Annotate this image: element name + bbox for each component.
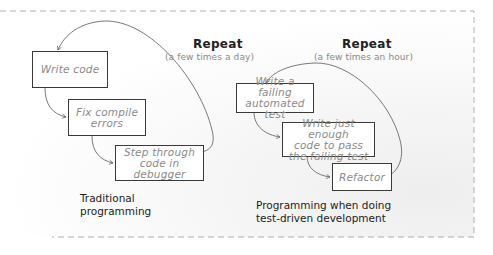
step-label: Write code: [41, 64, 100, 75]
arrow-fix-to-step: [92, 136, 113, 163]
step-fix-compile-errors: Fix compile errors: [68, 99, 146, 136]
caption-tdd: Programming when doing test-driven devel…: [256, 199, 391, 224]
step-refactor: Refactor: [332, 163, 392, 191]
caption-traditional: Traditional programming: [80, 192, 151, 217]
repeat-frequency-tdd: (a few times an hour): [314, 52, 413, 62]
arrow-write-to-fix: [45, 88, 66, 117]
repeat-title-tdd: Repeat: [342, 37, 392, 51]
repeat-frequency-traditional: (a few times a day): [165, 52, 254, 62]
step-step-through-debugger: Step through code in debugger: [115, 145, 204, 181]
repeat-title-traditional: Repeat: [193, 37, 243, 51]
step-write-code-to-pass: Write just enough code to pass the faili…: [282, 122, 375, 157]
step-write-failing-test: Write a failing automated test: [236, 83, 314, 113]
step-label: Write just enough code to pass the faili…: [283, 118, 374, 162]
step-label: Write a failing automated test: [237, 76, 313, 120]
step-label: Fix compile errors: [76, 107, 138, 129]
step-label: Step through code in debugger: [116, 147, 203, 180]
step-write-code: Write code: [32, 51, 108, 88]
step-label: Refactor: [339, 172, 385, 183]
